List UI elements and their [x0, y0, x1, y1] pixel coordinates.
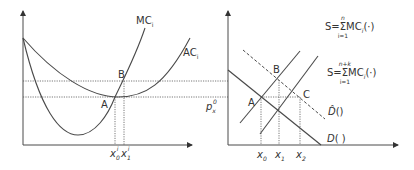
- demand-hat-text: D̂: [328, 106, 336, 117]
- point-b-right: B: [273, 65, 280, 75]
- x0i-sub: 0: [116, 154, 120, 161]
- sigma-nk: n+kΣi=1: [342, 68, 348, 78]
- x2-sub: 2: [302, 155, 306, 162]
- point-b-left: B: [118, 70, 125, 80]
- sigma-n: nΣi=1: [340, 22, 346, 32]
- demand-hat-arg: (): [336, 106, 344, 117]
- supply-nk-term: MC: [348, 67, 364, 78]
- ac-sub: i: [197, 53, 199, 60]
- demand-arg: ( ): [335, 133, 346, 144]
- sigma-n-lower: i=1: [338, 33, 349, 39]
- demand-hat-label: D̂(): [328, 107, 344, 117]
- x0-tick-label: x0: [257, 150, 267, 160]
- sigma-nk-upper: n+k: [339, 61, 351, 67]
- supply-nk-eq: =: [333, 67, 341, 78]
- demand-text: D: [327, 133, 335, 144]
- mc-curve: [23, 28, 145, 135]
- demand-hat-line: [243, 50, 325, 119]
- mc-label: MCi: [136, 16, 153, 28]
- x1-tick-label: x1: [275, 150, 285, 160]
- ac-label: ACi: [183, 48, 198, 60]
- left-panel: [23, 11, 228, 145]
- sigma-n-upper: n: [341, 15, 345, 21]
- x1i-tick-label: x1i: [121, 149, 132, 159]
- x2-tick-label: x2: [296, 150, 306, 160]
- price-sup: 0: [213, 98, 217, 105]
- point-a-right: A: [248, 98, 255, 108]
- supply-n-term: MC: [346, 21, 362, 32]
- x1-sub: 1: [281, 155, 285, 162]
- price-sub: x: [212, 107, 216, 114]
- sigma-n-symbol: Σ: [340, 21, 346, 32]
- supply-nk-arg: (·): [365, 67, 376, 78]
- ac-curve: [23, 38, 190, 97]
- mc-text: MC: [136, 15, 152, 26]
- supply-n-eq: =: [331, 21, 339, 32]
- x0-sub: 0: [263, 155, 267, 162]
- sigma-nk-symbol: Σ: [342, 67, 348, 78]
- price-p0-label: px0: [206, 102, 220, 112]
- ac-text: AC: [183, 47, 197, 58]
- supply-nk-formula: S=n+kΣi=1MCi(·): [327, 68, 376, 80]
- x0i-tick-label: x0i: [110, 149, 121, 159]
- sigma-nk-lower: i=1: [340, 79, 351, 85]
- point-c-right: C: [303, 90, 310, 100]
- mc-sub: i: [152, 21, 154, 28]
- x1i-sub: 1: [127, 154, 131, 161]
- point-a-left: A: [101, 100, 108, 110]
- supply-n-formula: S=nΣi=1MCi(·): [325, 22, 374, 34]
- supply-n-arg: (·): [363, 21, 374, 32]
- demand-label: D( ): [327, 134, 346, 144]
